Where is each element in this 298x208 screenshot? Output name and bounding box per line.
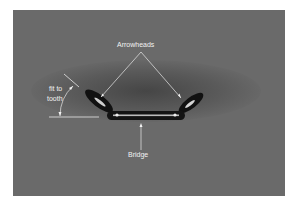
fit-to-tooth-label-line2: tooth bbox=[47, 95, 63, 103]
annotation-overlay bbox=[13, 10, 285, 196]
bridge-pointer-tip bbox=[140, 123, 143, 127]
angle-line bbox=[64, 74, 79, 87]
arrowhead-tip-right bbox=[178, 94, 181, 99]
bridge-wire bbox=[107, 111, 185, 120]
arrowheads-label: Arrowheads bbox=[117, 41, 154, 49]
bridge-label: Bridge bbox=[128, 151, 148, 159]
clasp-photo: Arrowheads Bridge fit to tooth bbox=[13, 10, 285, 196]
fit-to-tooth-label-line1: fit to bbox=[49, 85, 62, 93]
angle-arc-tip-bottom bbox=[59, 112, 62, 116]
arrowheads-pointers bbox=[101, 52, 181, 98]
